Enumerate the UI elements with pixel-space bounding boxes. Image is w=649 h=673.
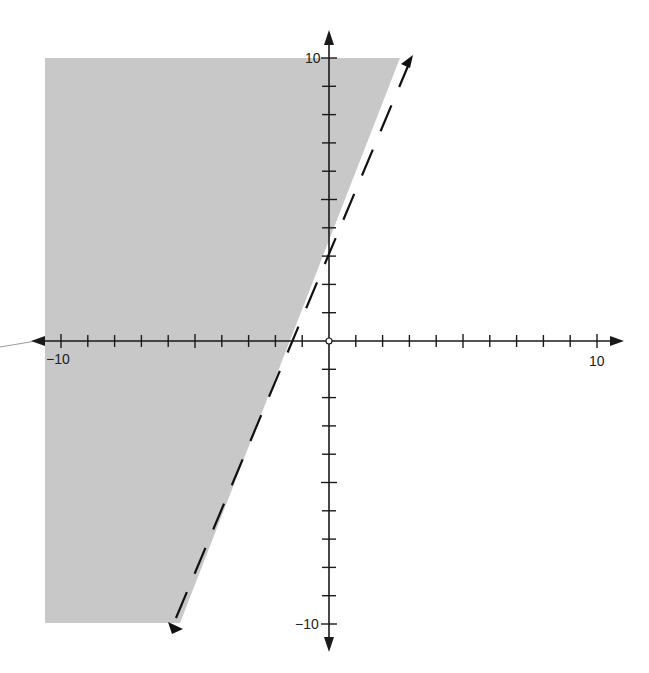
x-tick-label-neg10: −10 [46,351,70,367]
boundary-line-bottom-arrow-icon [168,622,183,634]
y-axis-up-arrow-icon [324,30,334,45]
x-axis-left-arrow-icon [31,336,45,346]
stray-line [0,341,36,347]
x-axis-right-arrow-icon [610,336,624,346]
y-axis-down-arrow-icon [324,637,334,652]
boundary-line-top-arrow-icon [401,55,413,68]
y-tick-label-10: 10 [305,50,321,66]
y-tick-label-neg10: −10 [295,616,319,632]
inequality-graph: −10 10 10 −10 [0,0,649,673]
x-tick-label-10: 10 [589,353,605,369]
origin-marker [326,338,332,344]
